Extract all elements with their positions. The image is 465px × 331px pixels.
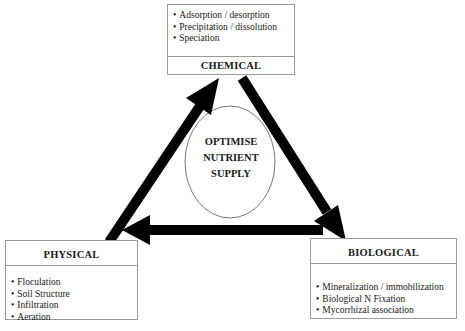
arrow-biological-to-physical — [122, 215, 323, 245]
biological-item: Mycorrhizal association — [316, 305, 456, 317]
chemical-item: Precipitation / dissolution — [173, 22, 294, 34]
center-line-2: NUTRIENT — [186, 150, 276, 166]
center-line-1: OPTIMISE — [186, 134, 276, 150]
center-line-3: SUPPLY — [186, 166, 276, 182]
chemical-item: Adsorption / desorption — [173, 10, 294, 22]
biological-title: BIOLOGICAL — [311, 239, 456, 264]
chemical-item: Speciation — [173, 33, 294, 45]
biological-list: Mineralization / immobilization Biologic… — [311, 264, 456, 317]
chemical-box: Adsorption / desorption Precipitation / … — [167, 4, 295, 75]
physical-item: Aeration — [11, 312, 137, 324]
center-label: OPTIMISE NUTRIENT SUPPLY — [186, 134, 276, 182]
biological-item: Biological N Fixation — [316, 294, 456, 306]
physical-list: Floculation Soil Structure Infiltration … — [6, 266, 137, 323]
physical-title: PHYSICAL — [6, 241, 137, 266]
chemical-list: Adsorption / desorption Precipitation / … — [168, 5, 294, 57]
physical-item: Infiltration — [11, 300, 137, 312]
biological-item: Mineralization / immobilization — [316, 282, 456, 294]
chemical-title: CHEMICAL — [168, 57, 294, 71]
physical-item: Soil Structure — [11, 289, 137, 301]
biological-box: BIOLOGICAL Mineralization / immobilizati… — [310, 238, 457, 319]
physical-item: Floculation — [11, 277, 137, 289]
physical-box: PHYSICAL Floculation Soil Structure Infi… — [5, 240, 138, 320]
